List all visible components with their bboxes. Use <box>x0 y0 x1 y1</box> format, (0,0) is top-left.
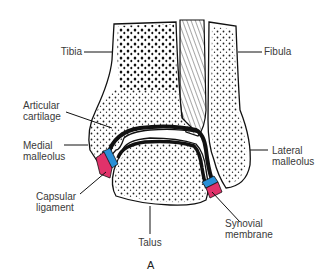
label-talus: Talus <box>135 237 165 248</box>
panel-label: A <box>147 259 154 271</box>
label-capsular-ligament-2: ligament <box>36 202 74 213</box>
ankle-joint-diagram <box>0 0 335 277</box>
label-articular-cartilage-1: Articular <box>23 100 60 111</box>
label-synovial-membrane-1: Synovial <box>225 218 263 229</box>
label-tibia: Tibia <box>38 46 82 57</box>
label-lateral-malleolus-1: Lateral <box>272 145 303 156</box>
label-fibula: Fibula <box>264 46 291 57</box>
interosseous-ligament <box>180 20 206 136</box>
fibula-bone <box>208 22 250 188</box>
label-medial-malleolus-2: malleolus <box>23 151 65 162</box>
label-lateral-malleolus-2: malleolus <box>272 156 314 167</box>
label-medial-malleolus-1: Medial <box>23 140 52 151</box>
label-synovial-membrane-2: membrane <box>225 229 273 240</box>
label-capsular-ligament-1: Capsular <box>36 191 76 202</box>
label-articular-cartilage-2: cartilage <box>23 111 61 122</box>
